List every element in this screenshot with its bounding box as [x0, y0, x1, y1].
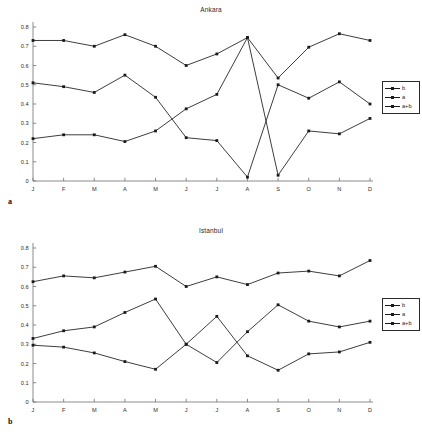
- data-point: [124, 360, 127, 363]
- svg-text:0.2: 0.2: [21, 140, 29, 146]
- svg-text:N: N: [337, 186, 341, 192]
- legend-line-sample-icon: [385, 302, 400, 309]
- svg-text:N: N: [337, 407, 341, 413]
- data-point: [93, 45, 96, 48]
- data-point: [93, 91, 96, 94]
- data-point: [277, 272, 280, 275]
- legend-label: b: [402, 85, 405, 92]
- data-point: [154, 298, 157, 301]
- svg-text:S: S: [276, 186, 280, 192]
- data-point: [277, 303, 280, 306]
- legend-line-sample-icon: [385, 311, 400, 318]
- data-point: [62, 346, 65, 349]
- data-point: [93, 133, 96, 136]
- data-point: [185, 285, 188, 288]
- legend-istanbul: baa+b: [382, 298, 420, 331]
- data-point: [215, 361, 218, 364]
- data-point: [62, 275, 65, 278]
- svg-text:0.6: 0.6: [21, 284, 29, 290]
- series-line-a: [33, 75, 370, 177]
- data-point: [246, 176, 249, 179]
- svg-text:0.1: 0.1: [21, 380, 29, 386]
- data-point: [154, 265, 157, 268]
- data-point: [32, 344, 35, 347]
- svg-text:J: J: [215, 407, 218, 413]
- plot-area-istanbul: 00.10.20.30.40.50.60.70.8JFMAMJJASOND: [0, 221, 422, 442]
- data-point: [154, 130, 157, 133]
- panel-label-a: a: [8, 197, 12, 206]
- data-point: [32, 81, 35, 84]
- svg-text:M: M: [153, 407, 158, 413]
- svg-text:0.5: 0.5: [21, 82, 29, 88]
- svg-text:D: D: [368, 186, 372, 192]
- svg-text:A: A: [246, 186, 250, 192]
- data-point: [124, 33, 127, 36]
- data-point: [215, 93, 218, 96]
- svg-text:M: M: [92, 186, 97, 192]
- data-point: [369, 39, 372, 42]
- data-point: [93, 352, 96, 355]
- svg-text:O: O: [307, 407, 312, 413]
- data-point: [338, 326, 341, 329]
- panel-label-b: b: [8, 417, 12, 426]
- data-point: [246, 330, 249, 333]
- data-point: [307, 270, 310, 273]
- data-point: [185, 136, 188, 139]
- series-line-b: [33, 261, 370, 287]
- svg-text:0.3: 0.3: [21, 120, 29, 126]
- data-point: [277, 77, 280, 80]
- svg-text:0.8: 0.8: [21, 245, 29, 251]
- legend-item-a: a: [385, 310, 416, 319]
- svg-text:J: J: [185, 407, 188, 413]
- svg-text:S: S: [276, 407, 280, 413]
- data-point: [338, 32, 341, 35]
- data-point: [307, 97, 310, 100]
- svg-text:0.3: 0.3: [21, 341, 29, 347]
- data-point: [32, 39, 35, 42]
- data-point: [277, 369, 280, 372]
- legend-item-b: b: [385, 301, 416, 310]
- svg-text:0: 0: [25, 399, 28, 405]
- series-line-b: [33, 34, 370, 78]
- data-point: [185, 107, 188, 110]
- svg-text:J: J: [32, 186, 35, 192]
- svg-text:0.2: 0.2: [21, 361, 29, 367]
- svg-text:A: A: [123, 407, 127, 413]
- data-point: [62, 85, 65, 88]
- legend-item-a: a: [385, 93, 416, 102]
- svg-text:0.6: 0.6: [21, 63, 29, 69]
- series-line-a+b: [33, 316, 370, 370]
- data-point: [124, 74, 127, 77]
- data-point: [277, 174, 280, 177]
- legend-label: b: [402, 302, 405, 309]
- data-point: [246, 283, 249, 286]
- data-point: [246, 36, 249, 39]
- data-point: [124, 311, 127, 314]
- data-point: [93, 276, 96, 279]
- data-point: [185, 64, 188, 67]
- data-point: [185, 343, 188, 346]
- legend-item-a+b: a+b: [385, 319, 416, 328]
- data-point: [369, 259, 372, 262]
- data-point: [246, 354, 249, 357]
- data-point: [215, 53, 218, 56]
- svg-text:O: O: [307, 186, 312, 192]
- data-point: [62, 39, 65, 42]
- panel-istanbul: Istanbul 00.10.20.30.40.50.60.70.8JFMAMJ…: [0, 221, 422, 442]
- data-point: [338, 275, 341, 278]
- data-point: [338, 351, 341, 354]
- data-point: [124, 271, 127, 274]
- svg-text:M: M: [153, 186, 158, 192]
- svg-text:0.5: 0.5: [21, 303, 29, 309]
- data-point: [32, 280, 35, 283]
- data-point: [62, 133, 65, 136]
- data-point: [307, 130, 310, 133]
- svg-text:0.1: 0.1: [21, 159, 29, 165]
- svg-text:0.4: 0.4: [21, 322, 29, 328]
- line-chart-istanbul: 00.10.20.30.40.50.60.70.8JFMAMJJASOND: [0, 221, 422, 442]
- legend-label: a+b: [402, 320, 412, 327]
- legend-label: a+b: [402, 103, 412, 110]
- data-point: [369, 117, 372, 120]
- svg-text:0.4: 0.4: [21, 101, 29, 107]
- series-line-a+b: [33, 38, 370, 176]
